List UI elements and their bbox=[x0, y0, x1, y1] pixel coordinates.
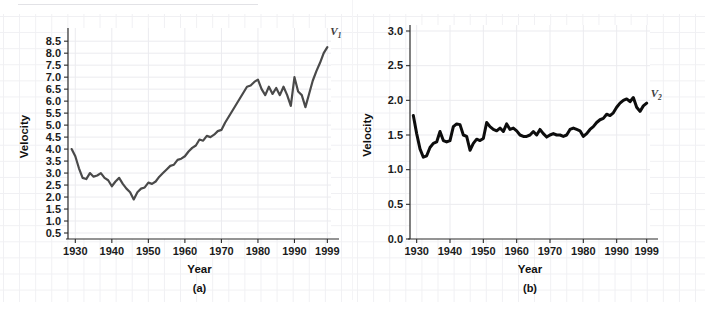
x-tick-label: 1960 bbox=[504, 245, 528, 257]
plot-background bbox=[410, 25, 650, 239]
y-tick-label: 6.0 bbox=[46, 95, 61, 107]
y-axis-title: Velocity bbox=[18, 114, 30, 158]
y-tick-label: 3.5 bbox=[46, 155, 61, 167]
y-tick-label: 5.5 bbox=[46, 107, 61, 119]
y-axis-title: Velocity bbox=[361, 113, 373, 157]
panel-caption: (a) bbox=[193, 282, 207, 294]
series-label: V2 bbox=[651, 87, 662, 102]
x-axis-ticks: 19301940195019601970198019901999 bbox=[404, 239, 658, 257]
y-tick-label: 2.0 bbox=[46, 191, 61, 203]
figure-stage: 0.51.01.52.02.53.03.54.04.55.05.56.06.57… bbox=[0, 0, 705, 312]
series-label: V1 bbox=[330, 25, 341, 40]
x-tick-label: 1970 bbox=[209, 245, 233, 257]
y-tick-label: 4.5 bbox=[46, 131, 61, 143]
chart-svg-b: 0.00.51.01.52.02.53.01930194019501960197… bbox=[353, 0, 705, 312]
y-tick-label: 2.5 bbox=[388, 59, 403, 71]
y-tick-label: 0.5 bbox=[46, 227, 61, 239]
x-axis-title: Year bbox=[518, 263, 543, 275]
x-axis-title: Year bbox=[187, 263, 212, 275]
chart-panel-a: 0.51.01.52.02.53.03.54.04.55.05.56.06.57… bbox=[0, 0, 352, 312]
y-tick-label: 8.5 bbox=[46, 35, 61, 47]
x-tick-label: 1990 bbox=[282, 245, 306, 257]
y-tick-label: 6.5 bbox=[46, 83, 61, 95]
y-tick-label: 4.0 bbox=[46, 143, 61, 155]
x-tick-label: 1940 bbox=[438, 245, 462, 257]
x-tick-label: 1960 bbox=[173, 245, 197, 257]
x-tick-label: 1999 bbox=[634, 245, 658, 257]
x-tick-label: 1940 bbox=[100, 245, 124, 257]
y-tick-label: 1.0 bbox=[388, 163, 403, 175]
plot-background bbox=[68, 28, 331, 239]
x-tick-label: 1950 bbox=[471, 245, 495, 257]
y-tick-label: 1.5 bbox=[388, 129, 403, 141]
x-tick-label: 1990 bbox=[604, 245, 628, 257]
x-tick-label: 1980 bbox=[571, 245, 595, 257]
y-tick-label: 3.0 bbox=[46, 167, 61, 179]
y-tick-label: 7.5 bbox=[46, 59, 61, 71]
y-tick-label: 8.0 bbox=[46, 47, 61, 59]
x-tick-label: 1950 bbox=[136, 245, 160, 257]
y-tick-label: 2.5 bbox=[46, 179, 61, 191]
y-tick-label: 1.5 bbox=[46, 203, 61, 215]
y-tick-label: 0.5 bbox=[388, 198, 403, 210]
x-tick-label: 1999 bbox=[315, 245, 339, 257]
y-axis-ticks: 0.51.01.52.02.53.03.54.04.55.05.56.06.57… bbox=[46, 35, 68, 239]
y-tick-label: 3.0 bbox=[388, 25, 403, 37]
y-tick-label: 2.0 bbox=[388, 94, 403, 106]
x-axis-ticks: 19301940195019601970198019901999 bbox=[63, 239, 340, 257]
y-tick-label: 0.0 bbox=[388, 233, 403, 245]
chart-panel-b: 0.00.51.01.52.02.53.01930194019501960197… bbox=[353, 0, 705, 312]
y-tick-label: 5.0 bbox=[46, 119, 61, 131]
x-tick-label: 1930 bbox=[63, 245, 87, 257]
x-tick-label: 1970 bbox=[538, 245, 562, 257]
y-tick-label: 1.0 bbox=[46, 215, 61, 227]
y-axis-ticks: 0.00.51.01.52.02.53.0 bbox=[388, 25, 410, 245]
x-tick-label: 1930 bbox=[404, 245, 428, 257]
x-tick-label: 1980 bbox=[246, 245, 270, 257]
chart-svg-a: 0.51.01.52.02.53.03.54.04.55.05.56.06.57… bbox=[0, 0, 352, 312]
y-tick-label: 7.0 bbox=[46, 71, 61, 83]
panel-caption: (b) bbox=[523, 282, 537, 294]
